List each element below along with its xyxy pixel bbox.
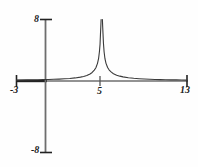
function-graph: 8 -8 -3 13 5	[0, 0, 198, 167]
y-axis-min-label: -8	[31, 145, 39, 155]
curve-left-branch	[17, 20, 102, 81]
curve-right-branch	[102, 20, 187, 81]
y-axis-max-label: 8	[34, 14, 39, 24]
x-axis-min-label: -3	[10, 85, 18, 95]
x-axis-tick-label-5: 5	[97, 86, 102, 96]
x-axis-max-label: 13	[180, 85, 190, 95]
plot-canvas	[0, 0, 198, 167]
